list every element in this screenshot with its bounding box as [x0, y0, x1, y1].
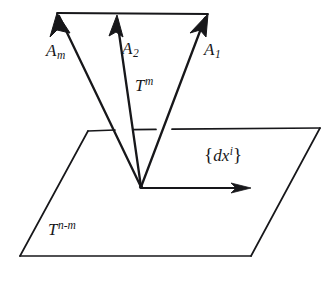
- label-subspace-Tnm: Tn-m: [48, 220, 76, 238]
- label-subspace-Tm: Tm: [135, 76, 153, 94]
- label-covector-open-brace: {: [204, 144, 213, 165]
- plane-edge-right: [251, 128, 320, 256]
- label-vector-A2: A2: [122, 40, 139, 60]
- label-covector-basis: {dxi}: [204, 145, 242, 164]
- label-subspace-Tnm-superscript: n-m: [57, 219, 75, 231]
- plane-edge-back-left: [88, 130, 115, 131]
- in-plane-covector-arrow: [141, 183, 251, 193]
- vector-tip-connector: [57, 13, 208, 14]
- label-vector-A2-base: A: [122, 39, 132, 58]
- label-subspace-Tm-superscript: m: [144, 75, 153, 87]
- vector-arrow-A2-head: [109, 15, 123, 37]
- label-covector-d: d: [213, 146, 222, 165]
- label-vector-Am-base: A: [46, 41, 56, 60]
- label-vector-Am: Am: [46, 42, 65, 62]
- label-vector-A1-base: A: [204, 40, 214, 59]
- apex-point: [139, 185, 143, 189]
- vector-arrow-A1-shaft: [141, 18, 205, 187]
- figure-canvas: Am A2 A1 Tm {dxi} Tn-m: [0, 0, 336, 285]
- label-covector-close-brace: }: [233, 144, 242, 165]
- plane-edge-back-right: [172, 128, 320, 129]
- label-vector-A1-subscript: 1: [214, 48, 220, 60]
- label-vector-Am-subscript: m: [56, 49, 65, 61]
- label-vector-A1: A1: [204, 41, 221, 61]
- label-vector-A2-subscript: 2: [132, 47, 138, 59]
